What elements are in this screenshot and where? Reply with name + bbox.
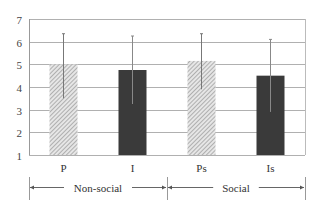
y-tick-label: 1 xyxy=(17,150,23,162)
y-tick-label: 7 xyxy=(17,14,23,26)
arrow-right-icon xyxy=(162,186,166,190)
x-category-label: Ps xyxy=(196,162,206,174)
group-label: Social xyxy=(222,182,250,194)
x-category-label: Is xyxy=(267,162,275,174)
group-label: Non-social xyxy=(74,182,122,194)
bars xyxy=(50,34,285,155)
x-category-label: P xyxy=(60,162,66,174)
y-tick-label: 3 xyxy=(17,105,23,117)
group-brackets: Non-socialSocial xyxy=(30,177,306,200)
arrow-right-icon xyxy=(300,186,304,190)
y-tick-label: 5 xyxy=(17,59,23,71)
bar-chart: 1234567 PIPsIs Non-socialSocial xyxy=(0,0,323,210)
arrow-left-icon xyxy=(30,186,34,190)
x-category-label: I xyxy=(131,162,135,174)
y-tick-label: 2 xyxy=(17,127,23,139)
y-tick-label: 4 xyxy=(17,82,23,94)
y-tick-label: 6 xyxy=(17,37,23,49)
x-axis-categories: PIPsIs xyxy=(60,162,274,174)
y-axis-ticks: 1234567 xyxy=(17,14,23,162)
arrow-left-icon xyxy=(168,186,172,190)
